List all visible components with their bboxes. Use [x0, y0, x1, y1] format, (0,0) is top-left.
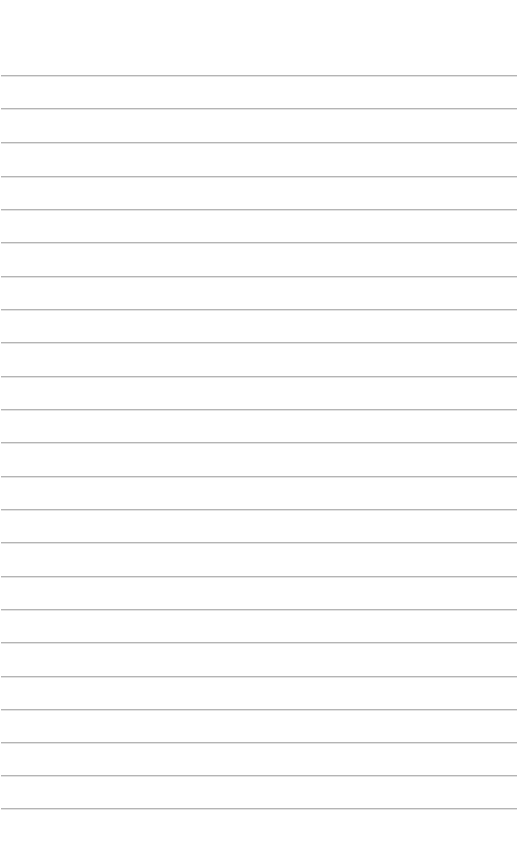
ruled-line	[1, 342, 517, 343]
ruled-line	[1, 409, 517, 410]
ruled-line	[1, 642, 517, 643]
ruled-line	[1, 476, 517, 477]
ruled-line	[1, 576, 517, 577]
ruled-line	[1, 742, 517, 743]
ruled-line	[1, 442, 517, 443]
ruled-line	[1, 242, 517, 243]
ruled-line	[1, 209, 517, 210]
ruled-line	[1, 808, 517, 809]
ruled-line	[1, 276, 517, 277]
lined-paper-page	[0, 0, 518, 859]
ruled-line	[1, 509, 517, 510]
ruled-line	[1, 676, 517, 677]
ruled-line	[1, 376, 517, 377]
ruled-line	[1, 542, 517, 543]
ruled-line	[1, 142, 517, 143]
ruled-line	[1, 108, 517, 109]
ruled-line	[1, 176, 517, 177]
ruled-line	[1, 309, 517, 310]
ruled-line	[1, 609, 517, 610]
ruled-line	[1, 75, 517, 76]
ruled-line	[1, 709, 517, 710]
ruled-line	[1, 775, 517, 776]
